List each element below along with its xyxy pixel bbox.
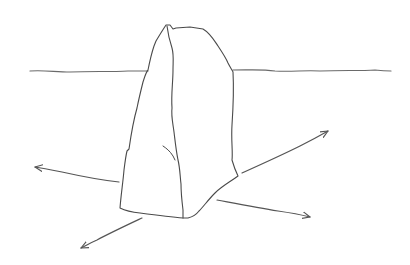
stone-crack <box>163 146 175 160</box>
arrow-down-left <box>81 218 142 248</box>
horizon-right <box>233 70 391 72</box>
stone-outline <box>120 25 238 218</box>
arrow-left <box>35 167 119 182</box>
arrow-up-right <box>242 131 328 173</box>
horizon-left <box>30 71 148 72</box>
stone-ridge <box>167 26 183 218</box>
sketch-canvas <box>0 0 410 265</box>
arrow-down-right <box>217 200 310 217</box>
horizon-line <box>30 70 391 72</box>
standing-stone <box>120 25 238 218</box>
